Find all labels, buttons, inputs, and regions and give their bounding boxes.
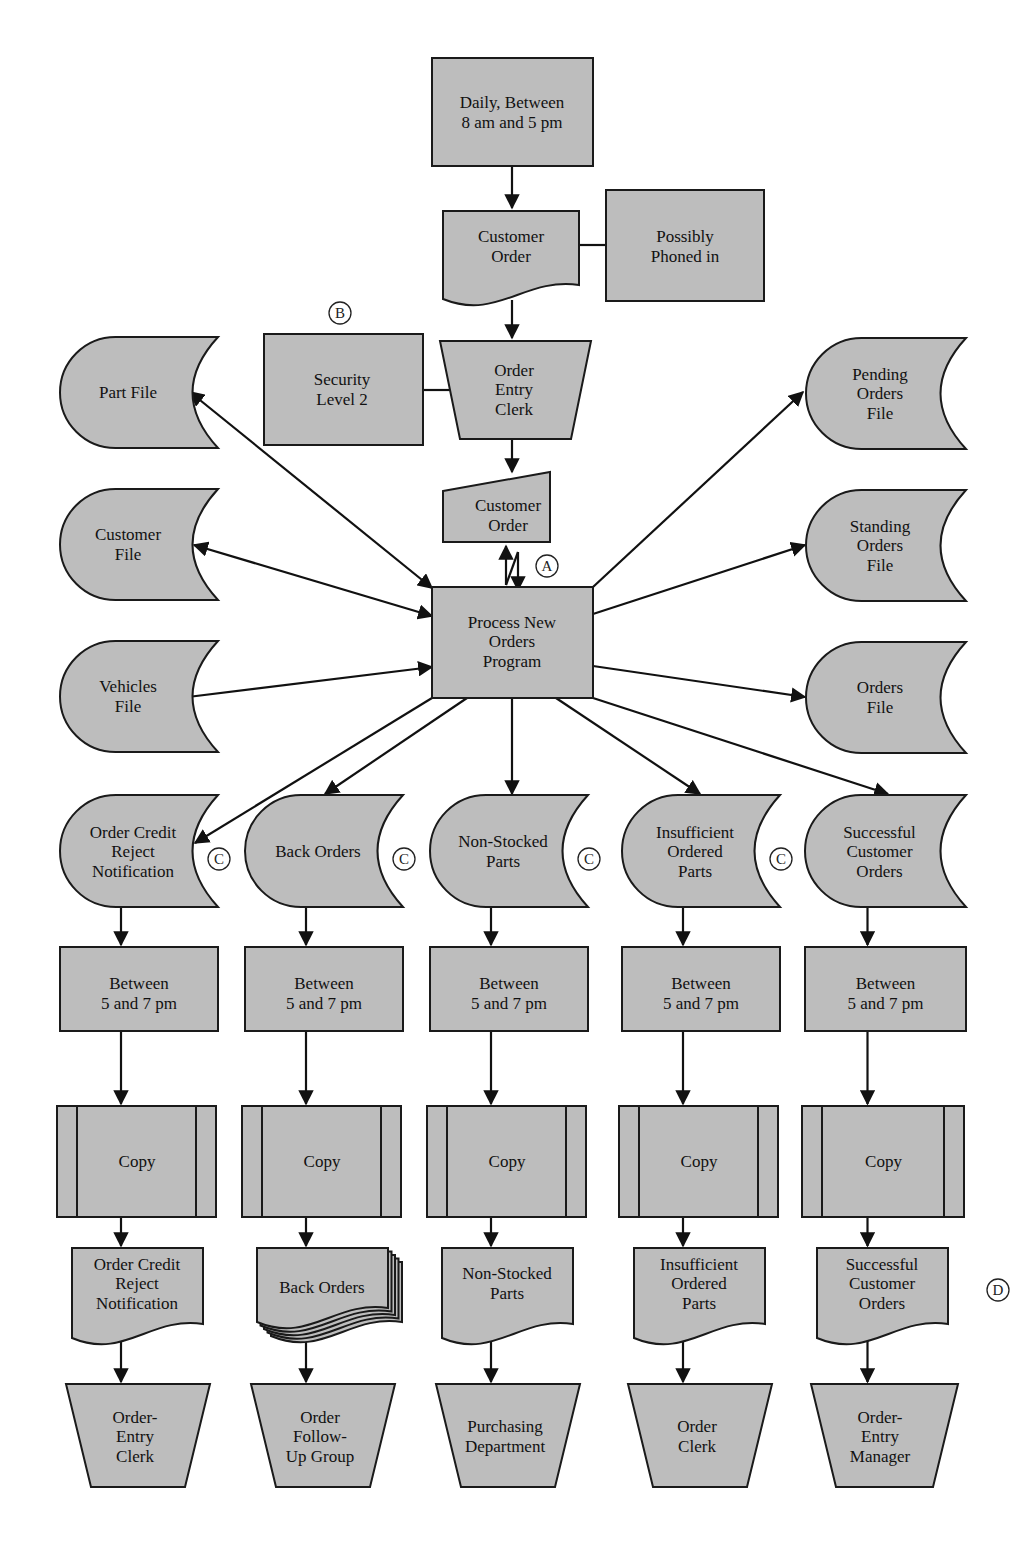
node-label: Notification [92,862,175,881]
node-label: Parts [486,852,520,871]
marker-letter: C [584,851,594,867]
node-label: Entry [116,1427,154,1446]
node-label: Entry [861,1427,899,1446]
node-label: 5 and 7 pm [847,994,923,1013]
node-label: Orders [857,678,903,697]
node-label: Insufficient [660,1255,738,1274]
node-label: Orders [857,536,903,555]
node-label: File [867,404,893,423]
node-label: Successful [843,823,916,842]
node-label: Orders [859,1294,905,1313]
schedule-box-0: Between5 and 7 pm [60,947,218,1031]
flow-arrow [593,545,805,614]
node-label: Between [856,974,916,993]
report-document-3: InsufficientOrderedParts [634,1248,765,1344]
node-label: Orders [489,632,535,651]
node-label: Copy [304,1152,341,1171]
node-label: Notification [96,1294,179,1313]
output-file-2: Non-StockedParts [430,795,588,907]
node-label: Order- [858,1408,903,1427]
schedule-box-2: Between5 and 7 pm [430,947,588,1031]
marker-b: B [329,302,351,324]
marker-c: C [208,848,230,870]
node-label: Clerk [678,1437,716,1456]
recipient-2: PurchasingDepartment [436,1384,580,1487]
node-label: Reject [111,842,155,861]
node-label: Ordered [671,1274,727,1293]
node-label: Security [314,370,371,389]
node-label: Copy [681,1152,718,1171]
node-label: 5 and 7 pm [101,994,177,1013]
node-label: Copy [489,1152,526,1171]
trigger-daily-box: Daily, Between8 am and 5 pm [432,58,593,166]
report-document-0: Order CreditRejectNotification [72,1248,203,1344]
node-label: Order Credit [90,823,177,842]
node-label: Successful [846,1255,919,1274]
node-label: File [115,545,141,564]
node-label: Program [483,652,542,671]
node-label: 5 and 7 pm [471,994,547,1013]
node-label: Non-Stocked [458,832,548,851]
node-label: Purchasing [467,1417,543,1436]
schedule-box-1: Between5 and 7 pm [245,947,403,1031]
node-label: Clerk [116,1447,154,1466]
node-label: Customer [846,842,912,861]
copy-process-1: Copy [242,1106,401,1217]
node-label: Between [479,974,539,993]
node-label: 5 and 7 pm [663,994,739,1013]
possibly-phoned-in-note: PossiblyPhoned in [606,190,764,301]
node-label: Follow- [293,1427,347,1446]
node-label: Parts [682,1294,716,1313]
node-label: Part File [99,383,157,402]
flow-arrow [325,698,467,794]
node-label: Parts [678,862,712,881]
report-document-4: SuccessfulCustomerOrders [817,1248,948,1344]
node-label: File [867,698,893,717]
node-label: Order [494,361,534,380]
report-document-2: Non-StockedParts [442,1248,573,1344]
file-standing-orders-file: StandingOrdersFile [806,490,966,601]
node-label: Back Orders [275,842,360,861]
node-label: Process New [468,613,557,632]
node-label: Customer [475,496,541,515]
node-label: Between [294,974,354,993]
customer-order-document: CustomerOrder [443,211,579,305]
node-label: Copy [119,1152,156,1171]
node-label: Order [488,516,528,535]
comm-link-zigzag [506,552,518,585]
node-label: Non-Stocked [462,1264,552,1283]
output-file-1: Back Orders [245,795,403,907]
node-label: 8 am and 5 pm [461,113,562,132]
node-label: Order Credit [94,1255,181,1274]
flow-arrow [188,667,432,697]
marker-letter: C [214,851,224,867]
node-label: Department [465,1437,546,1456]
node-label: Customer [478,227,544,246]
copy-process-3: Copy [619,1106,778,1217]
process-new-orders-program: Process NewOrdersProgram [432,587,593,698]
recipient-3: OrderClerk [628,1384,772,1487]
schedule-box-3: Between5 and 7 pm [622,947,780,1031]
shapes: Daily, Between8 am and 5 pmCustomerOrder… [57,58,1009,1487]
node-label: Entry [495,380,533,399]
marker-d: D [987,1279,1009,1301]
order-processing-flowchart: Daily, Between8 am and 5 pmCustomerOrder… [0,0,1030,1541]
recipient-1: OrderFollow-Up Group [251,1384,395,1487]
node-label: Order- [113,1408,158,1427]
marker-letter: C [399,851,409,867]
node-label: Daily, Between [460,93,565,112]
node-label: 5 and 7 pm [286,994,362,1013]
node-label: Order [677,1417,717,1436]
report-multi-document-1: Back Orders [257,1248,402,1342]
node-label: Ordered [667,842,723,861]
node-label: File [867,556,893,575]
copy-process-2: Copy [427,1106,586,1217]
node-label: Between [671,974,731,993]
order-entry-clerk-operation: OrderEntryClerk [440,341,591,439]
node-label: Between [109,974,169,993]
node-label: Orders [856,862,902,881]
flow-arrow [593,666,805,697]
node-label: Vehicles [99,677,157,696]
file-part-file: Part File [60,337,218,448]
file-orders-file: OrdersFile [806,642,966,753]
